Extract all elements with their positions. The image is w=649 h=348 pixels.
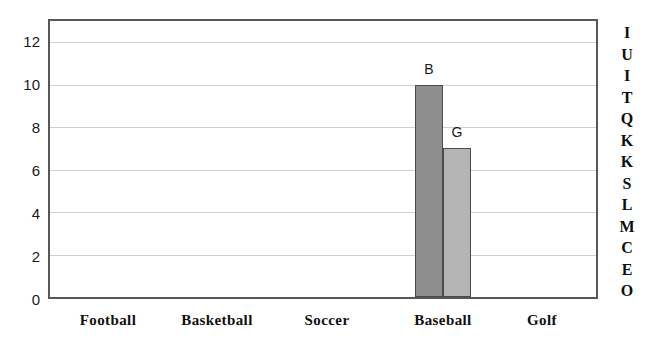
side-letter-5: K xyxy=(621,130,633,152)
side-letter-9: M xyxy=(619,216,634,238)
y-tick-12: 12 xyxy=(6,33,40,50)
gridline-6 xyxy=(50,170,596,171)
y-tick-0: 0 xyxy=(6,291,40,308)
side-letter-7: S xyxy=(623,173,632,195)
side-letter-11: E xyxy=(622,259,633,281)
gridline-10 xyxy=(50,85,596,86)
bar-label-b: B xyxy=(415,62,443,76)
x-tick-golf: Golf xyxy=(482,313,602,328)
y-tick-4: 4 xyxy=(6,205,40,222)
side-letter-0: I xyxy=(624,22,630,44)
gridline-8 xyxy=(50,127,596,128)
bar-label-g: G xyxy=(443,125,471,139)
side-letter-2: I xyxy=(624,65,630,87)
bar-chart-figure: 12 10 8 6 4 2 0 B G Football Basketball … xyxy=(0,0,649,348)
x-tick-football: Football xyxy=(48,313,168,328)
side-letter-4: Q xyxy=(621,108,633,130)
y-tick-6: 6 xyxy=(6,162,40,179)
side-letter-10: C xyxy=(621,237,633,259)
vertical-letter-column: I U I T Q K K S L M C E O xyxy=(612,22,642,302)
bar-baseball-g xyxy=(443,148,471,297)
bar-baseball-b xyxy=(415,85,443,297)
side-letter-12: O xyxy=(621,280,633,302)
y-tick-10: 10 xyxy=(6,76,40,93)
y-tick-2: 2 xyxy=(6,248,40,265)
gridline-4 xyxy=(50,212,596,213)
gridline-2 xyxy=(50,255,596,256)
gridline-12 xyxy=(50,42,596,43)
side-letter-8: L xyxy=(622,194,633,216)
side-letter-1: U xyxy=(621,44,633,66)
y-tick-8: 8 xyxy=(6,119,40,136)
plot-area: B G xyxy=(48,19,598,299)
side-letter-6: K xyxy=(621,151,633,173)
x-tick-soccer: Soccer xyxy=(267,313,387,328)
side-letter-3: T xyxy=(622,87,633,109)
x-tick-basketball: Basketball xyxy=(157,313,277,328)
